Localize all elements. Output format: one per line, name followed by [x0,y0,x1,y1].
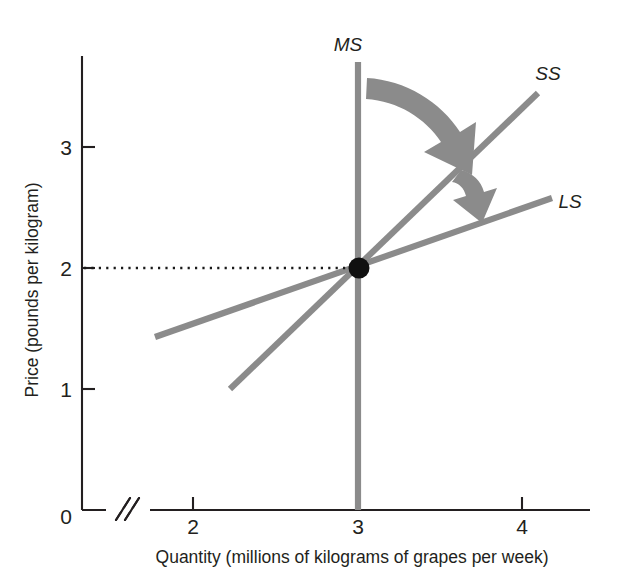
arrow-ms-to-ss-icon [366,78,476,175]
origin-label: 0 [60,505,72,528]
tick-labels-group: 3 2 1 0 2 3 4 [60,136,528,538]
chart-canvas: 3 2 1 0 2 3 4 MS SS LS [0,0,626,579]
supply-curves-chart: 3 2 1 0 2 3 4 MS SS LS [0,0,626,579]
y-axis-title: Price (pounds per kilogram) [22,183,42,398]
x-tick-label-2: 2 [187,515,199,538]
ms-curve-label: MS [334,34,363,55]
y-tick-label-2: 2 [60,257,72,280]
curve-labels-group: MS SS LS [334,34,582,212]
equilibrium-point-dot [349,258,370,279]
ls-curve-label: LS [558,191,582,212]
y-tick-label-1: 1 [60,378,72,401]
x-tick-label-3: 3 [352,515,364,538]
x-tick-label-4: 4 [516,515,528,538]
curves-group [155,62,552,510]
y-tick-label-3: 3 [60,136,72,159]
axis-break-icon [106,498,150,520]
arrow-ss-to-ls-icon [452,170,497,223]
x-axis-title: Quantity (millions of kilograms of grape… [156,547,549,567]
ss-curve-label: SS [535,63,561,84]
ss-curve [230,93,538,389]
